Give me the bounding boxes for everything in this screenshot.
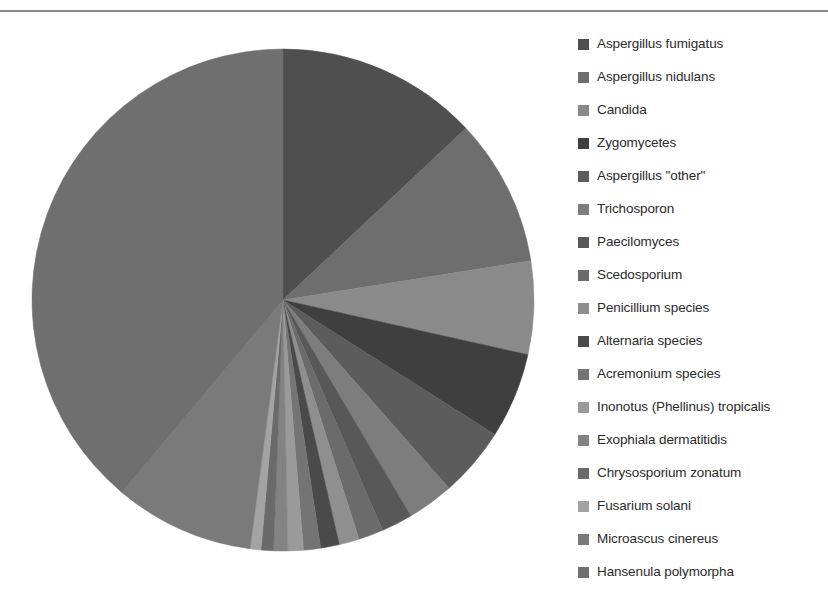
legend-color-swatch — [578, 39, 589, 50]
pie-slice-group — [32, 49, 534, 551]
legend-item-label: Alternaria species — [597, 334, 703, 349]
legend-item-label: Fusarium solani — [597, 499, 691, 514]
legend-color-swatch — [578, 303, 589, 314]
legend-color-swatch — [578, 534, 589, 545]
legend-color-swatch — [578, 567, 589, 578]
legend-item[interactable]: Scedosporium — [578, 259, 826, 292]
legend-item[interactable]: Aspergillus fumigatus — [578, 28, 826, 61]
legend-item[interactable]: Chrysosporium zonatum — [578, 457, 826, 490]
chart-legend: Aspergillus fumigatusAspergillus nidulan… — [578, 28, 826, 589]
pie-chart — [0, 0, 560, 606]
legend-item-label: Penicillium species — [597, 301, 709, 316]
legend-item-label: Microascus cinereus — [597, 532, 718, 547]
legend-item-label: Aspergillus fumigatus — [597, 37, 723, 52]
legend-color-swatch — [578, 270, 589, 281]
legend-color-swatch — [578, 105, 589, 116]
legend-color-swatch — [578, 468, 589, 479]
legend-item-label: Acremonium species — [597, 367, 721, 382]
legend-item[interactable]: Inonotus (Phellinus) tropicalis — [578, 391, 826, 424]
legend-item-label: Scedosporium — [597, 268, 682, 283]
legend-item-label: Chrysosporium zonatum — [597, 466, 741, 481]
legend-item[interactable]: Candida — [578, 94, 826, 127]
legend-item-label: Aspergillus nidulans — [597, 70, 715, 85]
legend-item-label: Aspergillus "other" — [597, 169, 705, 184]
legend-item[interactable]: Paecilomyces — [578, 226, 826, 259]
legend-item[interactable]: Fusarium solani — [578, 490, 826, 523]
legend-color-swatch — [578, 171, 589, 182]
legend-item[interactable]: Aspergillus nidulans — [578, 61, 826, 94]
legend-item-label: Trichosporon — [597, 202, 674, 217]
legend-item-label: Candida — [597, 103, 647, 118]
pie-chart-area — [0, 0, 560, 606]
legend-item[interactable]: Microascus cinereus — [578, 523, 826, 556]
legend-color-swatch — [578, 336, 589, 347]
legend-item-label: Paecilomyces — [597, 235, 679, 250]
legend-item[interactable]: Hansenula polymorpha — [578, 556, 826, 589]
legend-color-swatch — [578, 204, 589, 215]
legend-color-swatch — [578, 435, 589, 446]
legend-item[interactable]: Aspergillus "other" — [578, 160, 826, 193]
legend-color-swatch — [578, 138, 589, 149]
legend-color-swatch — [578, 402, 589, 413]
legend-item[interactable]: Exophiala dermatitidis — [578, 424, 826, 457]
legend-item[interactable]: Acremonium species — [578, 358, 826, 391]
legend-item[interactable]: Trichosporon — [578, 193, 826, 226]
legend-item-label: Inonotus (Phellinus) tropicalis — [597, 400, 770, 415]
legend-item-label: Exophiala dermatitidis — [597, 433, 727, 448]
legend-item-label: Hansenula polymorpha — [597, 565, 734, 580]
legend-color-swatch — [578, 369, 589, 380]
legend-item-label: Zygomycetes — [597, 136, 676, 151]
legend-item[interactable]: Zygomycetes — [578, 127, 826, 160]
legend-color-swatch — [578, 501, 589, 512]
legend-color-swatch — [578, 72, 589, 83]
legend-item[interactable]: Alternaria species — [578, 325, 826, 358]
legend-item[interactable]: Penicillium species — [578, 292, 826, 325]
legend-color-swatch — [578, 237, 589, 248]
